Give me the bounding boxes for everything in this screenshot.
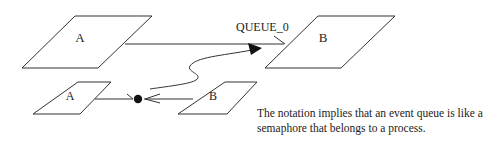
process-big-a-shape bbox=[22, 16, 152, 68]
process-small-a-label: A bbox=[66, 89, 75, 103]
queue-marker bbox=[274, 36, 285, 44]
process-small-b-shape bbox=[178, 82, 257, 114]
queue-label: QUEUE_0 bbox=[236, 20, 289, 34]
process-big-a-label: A bbox=[75, 30, 85, 45]
event-dot bbox=[134, 95, 142, 103]
filled-arrowhead bbox=[248, 43, 262, 55]
process-big-b-label: B bbox=[319, 30, 328, 45]
caption-text: The notation implies that an event queue… bbox=[257, 106, 487, 136]
wavy-arrow-path bbox=[150, 50, 252, 89]
process-small-b-label: B bbox=[209, 89, 217, 103]
small-a-tick bbox=[127, 94, 133, 99]
diagram-canvas: A B A B QUEUE_0 The notation implies tha… bbox=[0, 0, 489, 145]
